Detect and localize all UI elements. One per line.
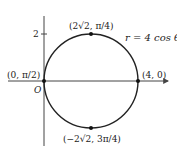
point-right	[136, 79, 140, 83]
y-tick-label: 2	[33, 29, 39, 39]
polar-graph: 2 (2√2, π/4) r = 4 cos θ (0, π/2) (4, 0)…	[0, 0, 177, 155]
point-bottom-label: (−2√2, 3π/4)	[63, 134, 121, 144]
point-top-label: (2√2, π/4)	[69, 21, 114, 31]
equation-label: r = 4 cos θ	[125, 32, 177, 43]
point-left-label: (0, π/2)	[7, 70, 40, 80]
point-right-label: (4, 0)	[142, 70, 166, 80]
point-top	[89, 32, 93, 36]
point-bottom	[89, 126, 93, 130]
origin-label: O	[34, 85, 42, 95]
point-origin	[42, 79, 46, 83]
